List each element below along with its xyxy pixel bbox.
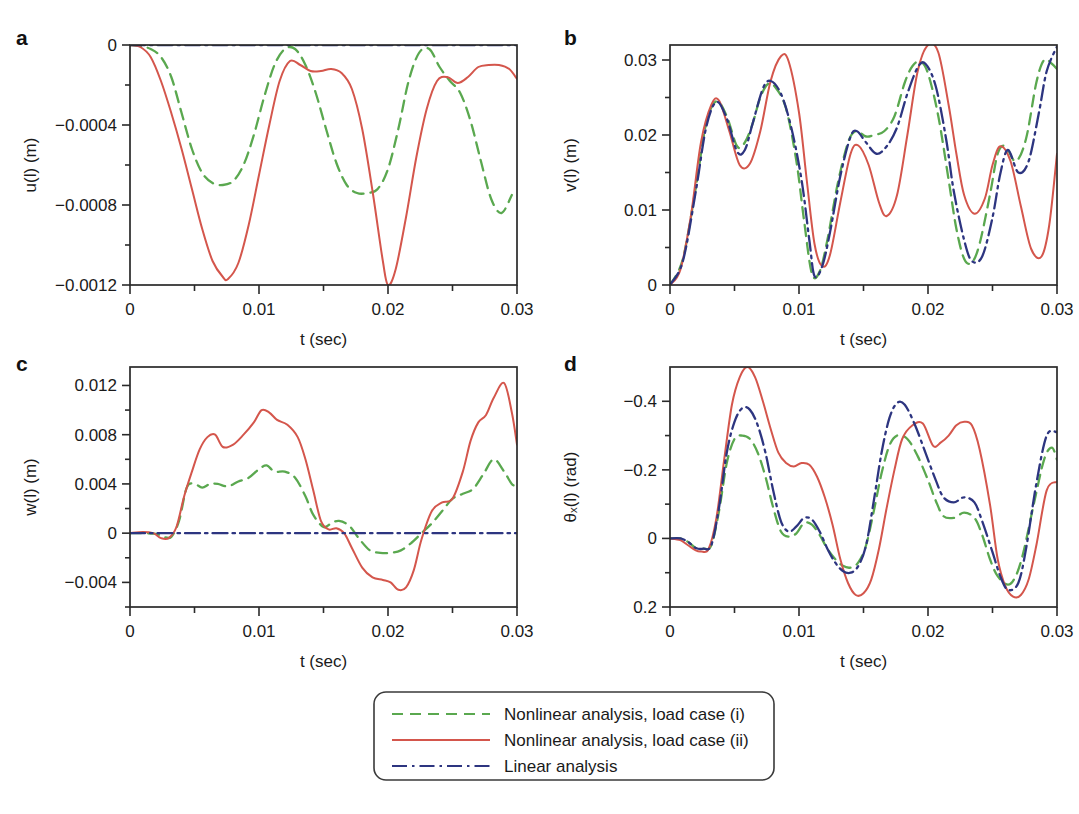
x-tick-label: 0.01 <box>242 622 275 641</box>
y-tick-label: −0.0004 <box>55 116 117 135</box>
curve-solid <box>130 383 517 591</box>
panel-c-plot: 0.0120.0080.0040−0.00400.010.020.03t (se… <box>0 340 540 685</box>
x-axis-title: t (sec) <box>840 652 887 671</box>
plot-frame <box>130 45 517 285</box>
curve-solid <box>130 45 517 285</box>
curve-dashdot <box>670 47 1057 286</box>
curve-dashed <box>670 59 1057 285</box>
legend-box: Nonlinear analysis, load case (i)Nonline… <box>370 686 780 791</box>
panel-b-plot: 00.010.020.0300.010.020.03t (sec)v(l) (m… <box>540 18 1079 363</box>
x-axis-title: t (sec) <box>300 652 347 671</box>
y-tick-label: 0 <box>648 529 657 548</box>
plot-frame <box>670 45 1057 285</box>
panel-c-letter: c <box>16 352 28 376</box>
curve-group <box>130 383 517 591</box>
y-tick-label: 0.01 <box>624 201 657 220</box>
panel-a-letter: a <box>16 26 28 50</box>
curve-group <box>670 367 1057 598</box>
x-tick-label: 0 <box>125 300 134 319</box>
y-tick-label: 0.012 <box>74 376 117 395</box>
x-tick-label: 0 <box>665 300 674 319</box>
figure-root: a 0−0.0004−0.0008−0.001200.010.020.03t (… <box>0 0 1079 814</box>
x-tick-label: 0 <box>125 622 134 641</box>
y-tick-label: 0.03 <box>624 51 657 70</box>
panel-b: b 00.010.020.0300.010.020.03t (sec)v(l) … <box>540 18 1079 363</box>
legend-label: Nonlinear analysis, load case (ii) <box>504 731 749 750</box>
x-tick-label: 0.02 <box>371 300 404 319</box>
x-tick-label: 0.03 <box>1040 300 1073 319</box>
legend-label: Linear analysis <box>504 757 617 776</box>
y-axis-title: v(l) (m) <box>561 138 580 192</box>
x-tick-label: 0.02 <box>371 622 404 641</box>
legend-label: Nonlinear analysis, load case (i) <box>504 705 745 724</box>
y-axis-title: w(l) (m) <box>21 458 40 517</box>
panel-d-letter: d <box>564 352 577 376</box>
y-tick-label: −0.004 <box>65 573 117 592</box>
y-tick-label: 0 <box>108 524 117 543</box>
curve-solid <box>670 367 1057 598</box>
panel-d: d −0.4−0.200.200.010.020.03t (sec)θₓ(l) … <box>540 340 1079 685</box>
panel-d-plot: −0.4−0.200.200.010.020.03t (sec)θₓ(l) (r… <box>540 340 1079 685</box>
x-tick-label: 0.02 <box>911 622 944 641</box>
x-tick-label: 0.01 <box>242 300 275 319</box>
y-tick-label: −0.0012 <box>55 276 117 295</box>
y-tick-label: 0.2 <box>633 598 657 617</box>
curve-group <box>130 45 517 285</box>
panel-a: a 0−0.0004−0.0008−0.001200.010.020.03t (… <box>0 18 540 363</box>
curve-group <box>670 43 1057 285</box>
panel-b-letter: b <box>564 26 577 50</box>
y-axis-title: θₓ(l) (rad) <box>561 452 580 523</box>
y-tick-label: 0.004 <box>74 475 117 494</box>
x-tick-label: 0 <box>665 622 674 641</box>
y-tick-label: −0.4 <box>623 392 657 411</box>
x-tick-label: 0.03 <box>1040 622 1073 641</box>
y-tick-label: 0 <box>648 276 657 295</box>
curve-dashed <box>130 459 517 553</box>
y-tick-label: 0.008 <box>74 426 117 445</box>
panel-c: c 0.0120.0080.0040−0.00400.010.020.03t (… <box>0 340 540 685</box>
y-tick-label: −0.2 <box>623 461 657 480</box>
x-tick-label: 0.03 <box>500 300 533 319</box>
y-tick-label: 0.02 <box>624 126 657 145</box>
y-tick-label: −0.0008 <box>55 196 117 215</box>
curve-solid <box>670 43 1057 285</box>
legend-panel: Nonlinear analysis, load case (i)Nonline… <box>370 686 780 791</box>
y-tick-label: 0 <box>108 36 117 55</box>
y-axis-title: u(l) (m) <box>21 138 40 193</box>
plot-frame <box>670 367 1057 607</box>
x-tick-label: 0.01 <box>782 300 815 319</box>
x-tick-label: 0.02 <box>911 300 944 319</box>
x-tick-label: 0.03 <box>500 622 533 641</box>
panel-a-plot: 0−0.0004−0.0008−0.001200.010.020.03t (se… <box>0 18 540 363</box>
x-tick-label: 0.01 <box>782 622 815 641</box>
